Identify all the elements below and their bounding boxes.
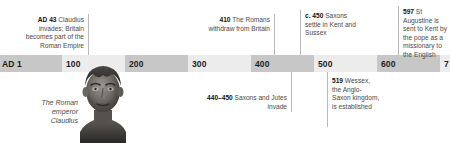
- event-date-450: c. 450: [305, 12, 323, 19]
- figure-caption: The Roman emperor Claudius: [26, 98, 78, 125]
- leader-line-440-450: [291, 72, 292, 112]
- figure-caption-line2: emperor Claudius: [26, 107, 78, 125]
- event-date-ad43: AD 43: [38, 16, 57, 23]
- timeline-chart: AD 1 100 200 300 400 500 600 7 AD 43 Cla…: [0, 0, 450, 143]
- axis-tick-ad1: AD 1: [2, 56, 22, 73]
- axis-tick-600: 600: [381, 56, 395, 73]
- leader-line-410: [274, 14, 275, 55]
- event-date-519: 519: [332, 77, 343, 84]
- event-note-ad43: AD 43 Claudius invades; Britain becomes …: [14, 16, 84, 50]
- leader-line-450: [300, 10, 301, 55]
- event-note-597: 597 St Augustine is sent to Kent by the …: [403, 8, 450, 60]
- axis-tick-500: 500: [318, 56, 332, 73]
- claudius-bust-image: [74, 58, 132, 143]
- event-date-597: 597: [403, 8, 414, 15]
- event-note-519: 519 Wessex, the Anglo-Saxon kingdom, is …: [332, 77, 380, 111]
- event-note-440-450: 440–450 Saxons and Jutes invade: [203, 94, 287, 111]
- event-text-410: The Romans withdraw from Britain: [208, 16, 270, 32]
- axis-tick-300: 300: [192, 56, 206, 73]
- leader-line-ad43: [88, 14, 89, 55]
- leader-line-519: [327, 72, 328, 127]
- event-date-410: 410: [220, 16, 231, 23]
- figure-caption-line1: The Roman: [26, 98, 78, 107]
- event-note-410: 410 The Romans withdraw from Britain: [196, 16, 270, 33]
- axis-tick-400: 400: [255, 56, 269, 73]
- leader-line-597: [398, 6, 399, 55]
- event-text-597: St Augustine is sent to Kent by the pope…: [403, 8, 447, 58]
- event-date-440-450: 440–450: [207, 94, 233, 101]
- event-text-440-450: Saxons and Jutes invade: [233, 94, 287, 110]
- event-note-450: c. 450 Saxons settle in Kent and Sussex: [305, 12, 363, 38]
